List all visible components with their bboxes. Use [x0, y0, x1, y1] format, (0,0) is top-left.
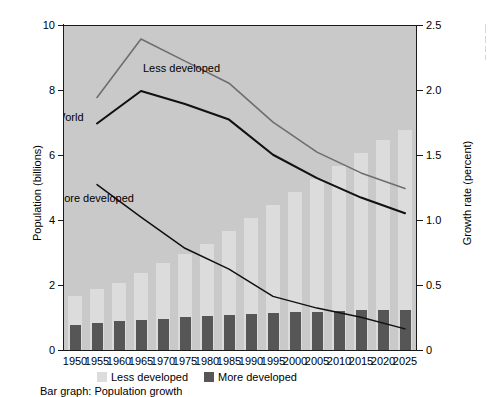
legend-label: More developed	[218, 371, 297, 383]
margin-mark	[485, 55, 486, 60]
x-axis-tick-label: 2000	[283, 355, 307, 367]
right-axis-tick-label: 0	[426, 345, 432, 356]
legend-item-less-developed: Less developed	[97, 371, 188, 383]
series-inline-label: Less developed	[143, 62, 220, 74]
x-axis-tick-label: 2025	[393, 355, 417, 367]
x-axis-tick-label: 2005	[305, 355, 329, 367]
line-series	[97, 91, 405, 213]
left-axis-tick	[58, 220, 64, 221]
legend-label: Less developed	[111, 371, 188, 383]
right-axis-tick	[417, 155, 423, 156]
legend-item-more-developed: More developed	[204, 371, 297, 383]
x-axis-tick-labels: 1950195519601965197019751980198519901995…	[64, 355, 416, 371]
line-series	[97, 185, 405, 329]
right-axis-tick-label: 2.0	[426, 85, 441, 96]
left-axis-title: Population (billions)	[31, 93, 43, 293]
x-axis-tick-label: 1985	[217, 355, 241, 367]
right-axis-tick	[417, 90, 423, 91]
right-axis-tick-label: 0.5	[426, 280, 441, 291]
right-axis-tick	[417, 285, 423, 286]
right-axis-tick	[417, 25, 423, 26]
x-axis-tick-label: 2015	[349, 355, 373, 367]
left-axis-line	[63, 24, 64, 351]
x-axis-tick-label: 1990	[239, 355, 263, 367]
margin-mark	[485, 46, 486, 52]
right-axis-title: Growth rate (percent)	[461, 93, 473, 293]
left-axis-tick-label: 4	[49, 215, 55, 226]
bottom-axis-line	[63, 350, 417, 351]
x-axis-tick-label: 1950	[63, 355, 87, 367]
right-axis-tick	[417, 350, 423, 351]
right-axis-tick-label: 2.5	[426, 20, 441, 31]
right-axis-tick-label: 1.0	[426, 215, 441, 226]
legend-swatch-icon	[97, 372, 107, 382]
series-inline-label: World	[64, 111, 84, 123]
left-axis-tick	[58, 350, 64, 351]
x-axis-tick-label: 1980	[195, 355, 219, 367]
left-axis-tick	[58, 25, 64, 26]
margin-mark	[485, 36, 486, 43]
left-axis-tick-label: 0	[49, 345, 55, 356]
line-series-layer	[64, 26, 416, 351]
right-axis-tick-label: 1.5	[426, 150, 441, 161]
left-axis-tick	[58, 90, 64, 91]
left-axis-tick	[58, 285, 64, 286]
chart-legend: Less developed More developed	[97, 371, 307, 383]
x-axis-tick-label: 1995	[261, 355, 285, 367]
x-axis-tick-label: 2020	[371, 355, 395, 367]
x-axis-tick-label: 1955	[85, 355, 109, 367]
legend-swatch-icon	[204, 372, 214, 382]
x-axis-tick-label: 2010	[327, 355, 351, 367]
x-axis-tick-label: 1965	[129, 355, 153, 367]
left-axis-tick-label: 10	[43, 20, 55, 31]
x-axis-tick-label: 1970	[151, 355, 175, 367]
margin-marks	[485, 20, 497, 60]
left-axis-tick	[58, 155, 64, 156]
left-axis-tick-label: 6	[49, 150, 55, 161]
chart-caption: Bar graph: Population growth	[40, 385, 182, 397]
series-inline-label: More developed	[64, 192, 134, 204]
right-axis-tick	[417, 220, 423, 221]
chart-plot-area: Less developedWorldMore developed	[64, 25, 417, 351]
x-axis-tick-label: 1960	[107, 355, 131, 367]
margin-mark	[485, 24, 486, 33]
x-axis-tick-label: 1975	[173, 355, 197, 367]
left-axis-tick-label: 2	[49, 280, 55, 291]
left-axis-tick-label: 8	[49, 85, 55, 96]
